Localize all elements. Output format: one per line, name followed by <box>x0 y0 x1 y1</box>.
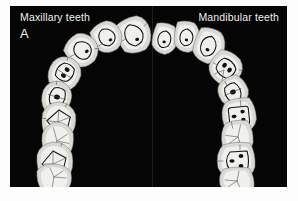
figure-panel: Maxillary teeth Mandibular teeth A <box>0 0 298 201</box>
dental-photograph-plate: Maxillary teeth Mandibular teeth A <box>10 6 287 187</box>
maxillary-tooth-9-distal-molar <box>37 164 72 187</box>
dental-arches-illustration <box>10 6 287 187</box>
maxillary-arch-group <box>37 13 155 187</box>
mandibular-arch-group <box>149 19 258 187</box>
maxillary-teeth-label: Maxillary teeth <box>20 11 90 23</box>
panel-letter-a: A <box>20 26 29 41</box>
mandibular-teeth-label: Mandibular teeth <box>198 11 279 23</box>
mandibular-tooth-9-distal-molar <box>220 167 255 187</box>
